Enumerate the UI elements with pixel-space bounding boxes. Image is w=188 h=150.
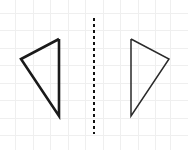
reflection-diagram xyxy=(0,0,188,150)
figure-canvas xyxy=(0,0,188,150)
